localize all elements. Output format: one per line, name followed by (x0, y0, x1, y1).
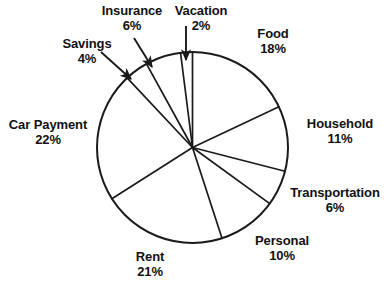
slice-label-vacation-name: Vacation (175, 3, 228, 18)
slice-label-food-pct: 18% (240, 41, 306, 56)
slice-label-household: Household 11% (296, 116, 384, 146)
slice-label-vacation: Vacation 2% (166, 3, 236, 33)
slice-label-car-payment-pct: 22% (0, 132, 96, 147)
slice-label-food-name: Food (257, 26, 288, 41)
slice-label-vacation-pct: 2% (166, 18, 236, 33)
slice-label-insurance-pct: 6% (92, 18, 172, 33)
slice-label-car-payment-name: Car Payment (9, 117, 87, 132)
slice-label-car-payment: Car Payment 22% (0, 117, 96, 147)
slice-label-rent-name: Rent (136, 249, 165, 264)
slice-label-transportation-name: Transportation (290, 185, 380, 200)
slice-label-personal-name: Personal (255, 233, 309, 248)
slice-label-household-pct: 11% (296, 131, 384, 146)
leader-line-insurance (134, 38, 152, 67)
slice-label-personal-pct: 10% (244, 248, 320, 263)
slice-label-rent: Rent 21% (120, 249, 180, 279)
slice-label-household-name: Household (307, 116, 373, 131)
slice-label-savings: Savings 4% (52, 36, 122, 66)
slice-label-savings-pct: 4% (52, 51, 122, 66)
slice-label-rent-pct: 21% (120, 264, 180, 279)
slice-label-savings-name: Savings (62, 36, 111, 51)
slice-label-transportation-pct: 6% (283, 200, 387, 215)
pie-chart: Insurance 6% Vacation 2% Food 18% Saving… (0, 0, 387, 283)
slice-label-insurance-name: Insurance (102, 3, 163, 18)
slice-label-personal: Personal 10% (244, 233, 320, 263)
slice-label-food: Food 18% (240, 26, 306, 56)
slice-label-insurance: Insurance 6% (92, 3, 172, 33)
slice-label-transportation: Transportation 6% (283, 185, 387, 215)
